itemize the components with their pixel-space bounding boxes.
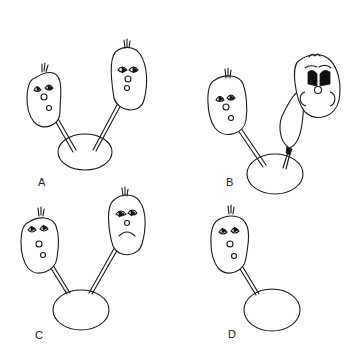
pool bbox=[244, 289, 300, 331]
panel-label-a: A bbox=[38, 176, 46, 188]
bean-character-content bbox=[21, 207, 58, 273]
pool bbox=[53, 290, 109, 330]
panel-c: C bbox=[21, 187, 145, 341]
figure-canvas: A B bbox=[0, 0, 354, 353]
panel-b: B bbox=[208, 54, 340, 194]
panel-a: A bbox=[27, 39, 147, 188]
panel-label-b: B bbox=[226, 176, 233, 188]
panel-d: D bbox=[211, 205, 300, 340]
bean-character-content bbox=[111, 39, 147, 110]
bean-character-content bbox=[27, 63, 61, 127]
panel-label-c: C bbox=[35, 329, 43, 341]
bean-character-content bbox=[211, 205, 249, 273]
bean-character-sad bbox=[109, 187, 146, 255]
panel-label-d: D bbox=[228, 328, 236, 340]
pool bbox=[247, 154, 303, 194]
straw bbox=[89, 245, 119, 294]
bean-character-content bbox=[208, 68, 247, 134]
